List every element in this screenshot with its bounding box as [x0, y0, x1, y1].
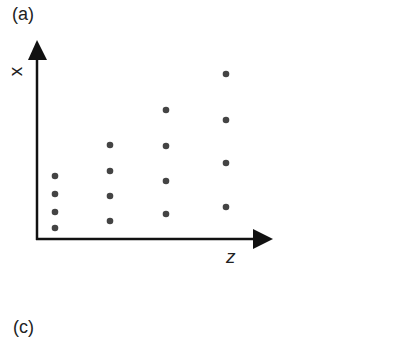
x-axis-arrow-icon: [253, 229, 273, 249]
data-points: [52, 71, 230, 232]
data-point: [163, 143, 170, 150]
data-point: [52, 209, 59, 216]
data-point: [163, 107, 170, 114]
data-point: [223, 117, 230, 124]
data-point: [52, 191, 59, 198]
y-axis-arrow-icon: [28, 40, 47, 60]
data-point: [107, 193, 114, 200]
scatter-plot: [0, 0, 403, 342]
data-point: [107, 218, 114, 225]
data-point: [223, 160, 230, 167]
data-point: [107, 168, 114, 175]
data-point: [223, 204, 230, 211]
data-point: [223, 71, 230, 78]
data-point: [52, 173, 59, 180]
axes: [28, 40, 273, 249]
data-point: [52, 225, 59, 232]
data-point: [107, 142, 114, 149]
data-point: [163, 211, 170, 218]
data-point: [163, 178, 170, 185]
